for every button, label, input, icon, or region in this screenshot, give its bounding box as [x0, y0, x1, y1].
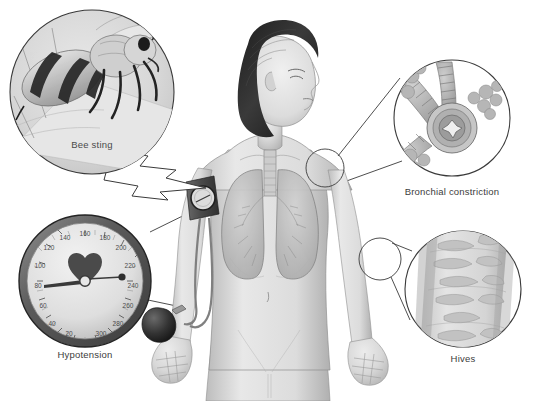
illustration-canvas: 20 40 60 80 100 120 140 160 180 200 220 …	[0, 0, 535, 401]
svg-text:200: 200	[116, 244, 127, 251]
caption-bronchial-constriction: Bronchial constriction	[372, 186, 532, 197]
hives-source-circle	[359, 238, 401, 280]
caption-bronchial-constriction-text: Bronchial constriction	[405, 186, 500, 197]
svg-text:180: 180	[100, 234, 111, 241]
caption-bee-sting-text: Bee sting	[71, 139, 112, 150]
svg-text:80: 80	[34, 282, 42, 289]
bee-antenna	[152, 28, 172, 41]
caption-hives: Hives	[403, 353, 523, 364]
constricted-airway-cross-section	[427, 103, 477, 153]
svg-text:160: 160	[80, 230, 91, 237]
bee-eye	[138, 37, 150, 51]
svg-text:260: 260	[123, 302, 134, 309]
callout-hives	[405, 228, 521, 352]
callout-bee-sting	[10, 10, 206, 200]
svg-text:140: 140	[60, 234, 71, 241]
svg-text:40: 40	[48, 320, 56, 327]
svg-text:220: 220	[125, 262, 136, 269]
left-arm	[328, 170, 372, 344]
svg-text:60: 60	[39, 302, 47, 309]
caption-hypotension: Hypotension	[5, 349, 165, 360]
callout-hypotension: 20 40 60 80 100 120 140 160 180 200 220 …	[19, 215, 151, 347]
svg-text:100: 100	[35, 262, 46, 269]
caption-hypotension-text: Hypotension	[57, 349, 112, 360]
anaphylaxis-illustration: 20 40 60 80 100 120 140 160 180 200 220 …	[0, 0, 535, 401]
svg-text:240: 240	[128, 282, 139, 289]
svg-text:120: 120	[44, 244, 55, 251]
svg-text:20: 20	[65, 330, 73, 337]
inflation-bulb	[142, 308, 176, 343]
caption-hives-text: Hives	[451, 353, 476, 364]
callout-bronchial-constriction	[390, 60, 510, 176]
caption-bee-sting: Bee sting	[0, 139, 184, 150]
